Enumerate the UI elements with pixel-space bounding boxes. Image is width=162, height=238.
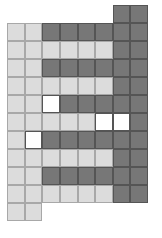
grid-cell-dark bbox=[130, 113, 148, 131]
grid-cell-light bbox=[7, 23, 25, 41]
grid-cell-dark bbox=[78, 23, 96, 41]
grid-cell-dark bbox=[95, 167, 113, 185]
grid-cell-light bbox=[25, 77, 43, 95]
grid-cell-light bbox=[25, 203, 43, 221]
grid-cell-light bbox=[95, 41, 113, 59]
grid-cell-light bbox=[7, 149, 25, 167]
grid-cell-dark bbox=[42, 167, 60, 185]
grid-cell-white bbox=[42, 95, 60, 113]
grid-cell-dark bbox=[113, 41, 131, 59]
grid-cell-light bbox=[25, 167, 43, 185]
grid-cell-light bbox=[42, 185, 60, 203]
grid-cell-light bbox=[42, 113, 60, 131]
grid-cell-dark bbox=[78, 131, 96, 149]
grid-cell-light bbox=[7, 95, 25, 113]
grid-cell-light bbox=[60, 113, 78, 131]
grid-cell-dark bbox=[130, 131, 148, 149]
grid-cell-dark bbox=[113, 167, 131, 185]
grid-cell-light bbox=[7, 41, 25, 59]
grid-cell-dark bbox=[113, 95, 131, 113]
grid-cell-dark bbox=[60, 131, 78, 149]
grid-cell-dark bbox=[130, 95, 148, 113]
grid-cell-light bbox=[78, 41, 96, 59]
grid-cell-dark bbox=[95, 95, 113, 113]
grid-cell-dark bbox=[130, 185, 148, 203]
grid-cell-dark bbox=[113, 5, 131, 23]
grid-cell-light bbox=[95, 185, 113, 203]
grid-cell-dark bbox=[78, 95, 96, 113]
grid-cell-white bbox=[25, 131, 43, 149]
grid-cell-dark bbox=[60, 23, 78, 41]
grid-cell-light bbox=[25, 95, 43, 113]
grid-cell-light bbox=[7, 203, 25, 221]
grid-cell-light bbox=[7, 185, 25, 203]
grid-cell-dark bbox=[113, 23, 131, 41]
grid-cell-dark bbox=[130, 41, 148, 59]
grid-cell-light bbox=[42, 149, 60, 167]
grid-cell-light bbox=[42, 41, 60, 59]
grid-cell-dark bbox=[113, 185, 131, 203]
grid-cell-dark bbox=[60, 167, 78, 185]
grid-cell-dark bbox=[42, 23, 60, 41]
grid-cell-light bbox=[60, 185, 78, 203]
grid-cell-white bbox=[113, 113, 131, 131]
grid-cell-light bbox=[60, 77, 78, 95]
grid-cell-light bbox=[25, 149, 43, 167]
grid-cell-light bbox=[25, 113, 43, 131]
grid-cell-light bbox=[25, 23, 43, 41]
grid-cell-dark bbox=[113, 77, 131, 95]
grid-cell-dark bbox=[78, 167, 96, 185]
grid-cell-dark bbox=[130, 77, 148, 95]
grid-cell-white bbox=[95, 113, 113, 131]
grid-cell-light bbox=[60, 41, 78, 59]
grid-cell-light bbox=[7, 113, 25, 131]
grid-cell-dark bbox=[95, 23, 113, 41]
grid-cell-dark bbox=[130, 167, 148, 185]
grid-cell-light bbox=[7, 77, 25, 95]
grid-cell-light bbox=[42, 77, 60, 95]
tiling-grid bbox=[7, 5, 148, 221]
grid-cell-dark bbox=[42, 59, 60, 77]
grid-cell-light bbox=[7, 59, 25, 77]
grid-cell-light bbox=[78, 77, 96, 95]
grid-cell-light bbox=[25, 185, 43, 203]
grid-cell-light bbox=[7, 131, 25, 149]
grid-cell-dark bbox=[130, 5, 148, 23]
grid-cell-light bbox=[25, 59, 43, 77]
grid-cell-dark bbox=[60, 59, 78, 77]
grid-cell-light bbox=[60, 149, 78, 167]
grid-cell-light bbox=[7, 167, 25, 185]
grid-cell-light bbox=[95, 149, 113, 167]
grid-cell-light bbox=[25, 41, 43, 59]
grid-cell-dark bbox=[113, 59, 131, 77]
grid-cell-dark bbox=[113, 131, 131, 149]
grid-cell-light bbox=[78, 185, 96, 203]
grid-cell-light bbox=[95, 77, 113, 95]
grid-cell-light bbox=[78, 149, 96, 167]
grid-cell-dark bbox=[78, 59, 96, 77]
grid-cell-dark bbox=[130, 23, 148, 41]
grid-cell-dark bbox=[95, 59, 113, 77]
grid-cell-dark bbox=[42, 131, 60, 149]
grid-cell-dark bbox=[60, 95, 78, 113]
grid-cell-dark bbox=[130, 149, 148, 167]
grid-cell-dark bbox=[113, 149, 131, 167]
grid-cell-dark bbox=[130, 59, 148, 77]
grid-cell-light bbox=[78, 113, 96, 131]
grid-cell-dark bbox=[95, 131, 113, 149]
